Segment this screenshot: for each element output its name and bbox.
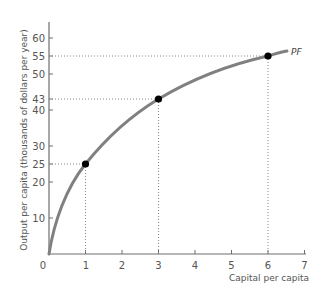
x-axis-title: Capital per capita <box>229 273 309 283</box>
y-axis-title: Output per capita (thousands of dollars … <box>19 29 29 251</box>
y-tick-55: 55 <box>32 51 45 62</box>
y-tick-labels: 10 20 25 30 40 43 50 55 60 <box>32 33 45 224</box>
x-tick-1: 1 <box>83 260 89 271</box>
y-tick-40: 40 <box>32 105 45 116</box>
x-tick-6: 6 <box>265 260 271 271</box>
y-tick-10: 10 <box>32 213 45 224</box>
y-tick-25: 25 <box>32 159 45 170</box>
x-tick-2: 2 <box>119 260 125 271</box>
guide-lines <box>49 56 268 254</box>
x-tick-4: 4 <box>192 260 198 271</box>
x-tick-5: 5 <box>228 260 234 271</box>
y-tick-43: 43 <box>32 94 45 105</box>
y-tick-20: 20 <box>32 177 45 188</box>
x-tick-7: 7 <box>301 260 307 271</box>
x-tick-labels: 0 1 2 3 4 5 6 7 <box>40 260 308 271</box>
y-tick-50: 50 <box>32 69 45 80</box>
production-function-curve <box>49 51 287 254</box>
pf-curve-label: PF <box>291 47 302 57</box>
y-tick-30: 30 <box>32 141 45 152</box>
production-function-chart: 10 20 25 30 40 43 50 55 60 0 1 2 3 4 5 6… <box>0 0 330 297</box>
data-point-1-25 <box>82 160 89 167</box>
x-tick-3: 3 <box>155 260 161 271</box>
data-point-3-43 <box>155 95 162 102</box>
y-tick-60: 60 <box>32 33 45 44</box>
origin-label: 0 <box>40 260 46 271</box>
data-point-6-55 <box>264 52 271 59</box>
